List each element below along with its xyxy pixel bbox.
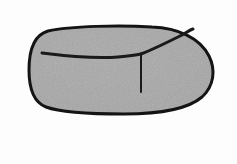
blob-body-group <box>25 22 217 120</box>
blob-figure <box>0 0 237 164</box>
figure-page: Shaded rounded blob with interior crease… <box>0 0 237 164</box>
